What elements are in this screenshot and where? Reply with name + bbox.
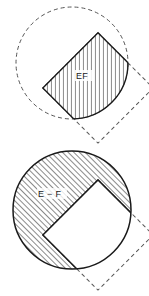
panel-difference: E − F	[0, 140, 149, 296]
difference-label: E − F	[38, 189, 61, 199]
difference-shaded-region	[0, 140, 149, 296]
panel-intersection: EF	[16, 7, 149, 143]
intersection-label: EF	[76, 71, 88, 81]
set-diagram-figure: EF E − F	[0, 0, 149, 296]
set-diagrams-svg: EF E − F	[0, 0, 149, 296]
intersection-shaded-region	[43, 33, 149, 143]
